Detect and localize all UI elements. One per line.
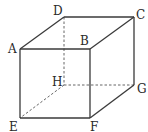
vertex-label-G: G bbox=[137, 82, 147, 96]
vertex-label-B: B bbox=[80, 34, 89, 48]
vertex-label-C: C bbox=[136, 8, 145, 22]
vertex-label-H: H bbox=[52, 75, 62, 89]
cube-diagram: A B C D E F G H bbox=[0, 0, 148, 132]
vertex-label-F: F bbox=[90, 120, 98, 132]
edge-AD bbox=[20, 17, 64, 49]
edge-HE bbox=[20, 85, 64, 118]
edge-CB bbox=[90, 17, 134, 49]
vertex-label-D: D bbox=[53, 4, 63, 18]
vertex-label-A: A bbox=[7, 42, 17, 56]
vertex-label-E: E bbox=[9, 120, 18, 132]
edge-GF bbox=[90, 85, 134, 118]
